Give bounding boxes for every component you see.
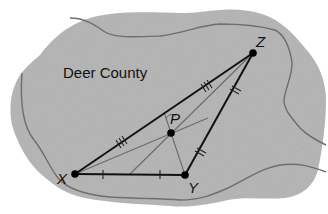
label-y: Y bbox=[188, 179, 199, 196]
label-z: Z bbox=[255, 33, 266, 50]
side-xy bbox=[75, 174, 185, 175]
region-label: Deer County bbox=[63, 64, 148, 81]
label-p: P bbox=[170, 110, 180, 127]
deer-county-diagram: Deer County X Y Z P bbox=[0, 0, 328, 214]
label-x: X bbox=[56, 170, 68, 187]
point-p bbox=[167, 129, 175, 137]
point-y bbox=[181, 171, 189, 179]
point-z bbox=[249, 49, 257, 57]
point-x bbox=[71, 170, 79, 178]
